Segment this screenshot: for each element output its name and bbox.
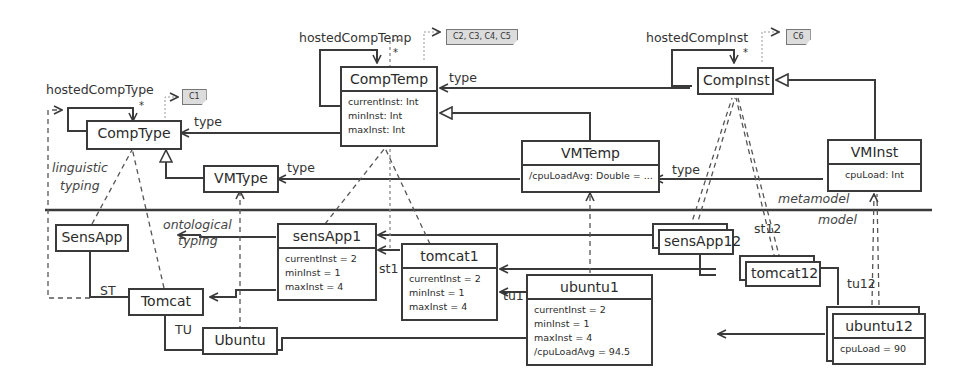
attribute: currentInst: Int [348, 95, 430, 109]
edge-label-st12: st12 [754, 221, 781, 236]
attribute: /cpuLoadAvg: Double = ... [529, 169, 652, 183]
constraint-note-c6: C6 [786, 29, 811, 45]
attribute: maxInst = 4 [409, 300, 490, 314]
edge-label-tu12: tu12 [847, 276, 876, 291]
edge-label-st1: st1 [379, 261, 398, 276]
class-vm-temp[interactable]: VMTemp /cpuLoadAvg: Double = ... [521, 140, 660, 193]
attribute: /cpuLoadAvg = 94.5 [534, 345, 645, 359]
assoc-label-hosted-comp-temp: hostedCompTemp [299, 30, 411, 45]
class-attributes: currentInst: Int minInst: Int maxInst: I… [342, 90, 436, 140]
object-name: tomcat1 [403, 245, 496, 267]
class-ubuntu[interactable]: Ubuntu [202, 327, 278, 355]
object-ubuntu1[interactable]: ubuntu1 currentInst = 2 minInst = 1 maxI… [526, 274, 653, 366]
class-name: Tomcat [130, 290, 202, 312]
ontological-typing-label: typing [178, 233, 218, 248]
object-tomcat12[interactable]: tomcat12 [745, 261, 821, 287]
multiplicity-label: * [139, 100, 144, 111]
linguistic-typing-label: typing [60, 178, 100, 193]
multiplicity-label: * [743, 47, 748, 58]
attribute: minInst: Int [348, 109, 430, 123]
object-attributes: currentInst = 2 minInst = 1 maxInst = 4 … [528, 298, 651, 362]
class-tomcat[interactable]: Tomcat [128, 288, 204, 316]
attribute: currentInst = 2 [534, 303, 645, 317]
class-name: CompTemp [342, 68, 436, 90]
attribute: currentInst = 2 [285, 252, 369, 266]
class-vm-type[interactable]: VMType [203, 165, 279, 193]
object-name: sensApp12 [660, 231, 732, 251]
class-name: VMInst [829, 141, 920, 163]
attribute: cpuLoad = 90 [840, 342, 918, 356]
edge-label-type: type [194, 114, 222, 129]
attribute: minInst = 1 [409, 286, 490, 300]
linguistic-typing-label: linguistic [52, 160, 108, 175]
object-ubuntu12[interactable]: ubuntu12 cpuLoad = 90 [832, 313, 926, 365]
layer-label-metamodel: metamodel [778, 191, 849, 206]
class-name: Ubuntu [204, 329, 276, 351]
assoc-label-hosted-comp-type: hostedCompType [46, 82, 154, 97]
object-attributes: currentInst = 2 minInst = 1 maxInst = 4 [403, 267, 496, 317]
class-name: VMTemp [523, 142, 658, 164]
layer-label-model: model [818, 212, 857, 227]
attribute: minInst = 1 [534, 317, 645, 331]
class-vm-inst[interactable]: VMInst cpuLoad: Int [827, 139, 922, 192]
class-name: SensApp [57, 226, 127, 248]
ontological-typing-label: ontological [163, 217, 232, 232]
object-name: tomcat12 [747, 263, 819, 283]
class-comp-temp[interactable]: CompTemp currentInst: Int minInst: Int m… [340, 66, 438, 147]
object-sens-app1[interactable]: sensApp1 currentInst = 2 minInst = 1 max… [277, 223, 377, 301]
class-attributes: /cpuLoadAvg: Double = ... [523, 164, 658, 186]
class-name: CompType [88, 122, 180, 144]
edge-label-type: type [287, 160, 315, 175]
edge-label-st: ST [100, 283, 116, 298]
attribute: maxInst: Int [348, 123, 430, 137]
multiplicity-label: * [393, 47, 398, 58]
object-tomcat1[interactable]: tomcat1 currentInst = 2 minInst = 1 maxI… [401, 243, 498, 321]
edge-label-type: type [449, 70, 477, 85]
object-attributes: cpuLoad = 90 [834, 337, 924, 359]
class-name: CompInst [699, 69, 772, 91]
attribute: cpuLoad: Int [835, 168, 914, 182]
edge-label-type: type [672, 162, 700, 177]
class-name: VMType [205, 167, 277, 189]
object-sens-app12[interactable]: sensApp12 [658, 229, 734, 255]
edge-label-tu1: tu1 [503, 288, 524, 303]
assoc-label-hosted-comp-inst: hostedCompInst [646, 30, 748, 45]
class-attributes: cpuLoad: Int [829, 163, 920, 185]
object-name: sensApp1 [279, 225, 375, 247]
object-name: ubuntu12 [834, 315, 924, 337]
attribute: maxInst = 4 [285, 280, 369, 294]
edge-label-tu: TU [175, 322, 192, 337]
attribute: maxInst = 4 [534, 331, 645, 345]
attribute: minInst = 1 [285, 266, 369, 280]
object-attributes: currentInst = 2 minInst = 1 maxInst = 4 [279, 247, 375, 297]
class-comp-inst[interactable]: CompInst [697, 67, 774, 95]
constraint-note-c2-c5: C2, C3, C4, C5 [446, 29, 518, 45]
attribute: currentInst = 2 [409, 272, 490, 286]
class-sens-app[interactable]: SensApp [55, 224, 129, 252]
object-name: ubuntu1 [528, 276, 651, 298]
class-comp-type[interactable]: CompType [86, 120, 182, 150]
constraint-note-c1: C1 [182, 89, 207, 105]
